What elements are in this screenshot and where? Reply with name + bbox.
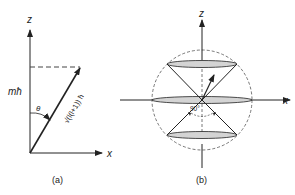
- projection-label: mħ: [8, 86, 22, 97]
- x-label-a: x: [106, 148, 113, 159]
- top-cone-right: [202, 64, 237, 100]
- bottom-cone-right: [202, 100, 237, 135]
- panel-b: z x 90° (b): [120, 8, 290, 185]
- angular-momentum-diagram: z x mħ θ √(l(l+1)) ħ (a) z x 90° (b): [0, 0, 295, 195]
- top-cone-disk: [167, 61, 237, 68]
- caption-b: (b): [196, 175, 207, 185]
- x-label-b: x: [282, 95, 289, 106]
- z-label-a: z: [26, 14, 32, 25]
- vector-magnitude-label: √(l(l+1)) ħ: [62, 93, 86, 125]
- angle-90-label: 90°: [190, 105, 200, 112]
- z-label-b: z: [198, 8, 204, 19]
- caption-a: (a): [52, 175, 63, 185]
- theta-arc: [30, 113, 50, 120]
- top-cone-left: [167, 64, 202, 100]
- theta-label: θ: [36, 104, 41, 113]
- panel-a: z x mħ θ √(l(l+1)) ħ (a): [8, 14, 113, 185]
- bottom-cone-disk: [167, 132, 237, 139]
